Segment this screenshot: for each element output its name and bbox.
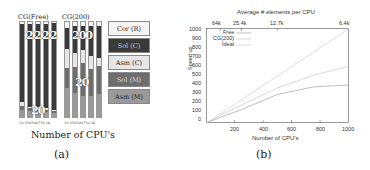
top-tick-12-7k: 12.7k — [270, 20, 283, 26]
y-tick: 400 — [192, 80, 201, 86]
legend-sol-c: Sol (C) — [108, 38, 150, 53]
legend-cor-r: Cor (R) — [108, 21, 150, 36]
caption-b: (b) — [256, 148, 272, 161]
y-tick: 100 — [192, 107, 201, 113]
bar-free-10 — [19, 21, 25, 118]
y-tick: 500 — [192, 71, 201, 77]
x-axis-label-b: Number of CPU's — [252, 135, 299, 141]
bar-annotation-free-bottom: 20 — [31, 104, 44, 117]
caption-a: (a) — [54, 148, 69, 161]
x-axis-label-a: Number of CPU's — [31, 129, 115, 140]
bar-cg200-1k — [96, 21, 102, 118]
bar-annotation-free-top-2: 2 — [34, 29, 41, 42]
bar-annotation-free-top-3: 2 — [42, 29, 49, 42]
x-tick: 600 — [287, 126, 296, 132]
y-tick: 0 — [198, 116, 201, 122]
x-tick: 400 — [259, 126, 268, 132]
legend-asm-c: Asm (C) — [108, 55, 150, 70]
legend-asm-m: Asm (M) — [108, 89, 150, 104]
group-title-cg-free: CG(Free) — [18, 13, 49, 21]
bar-annotation-cg200-top: 200 — [72, 29, 92, 42]
x-tick: 800 — [316, 126, 325, 132]
y-tick: 800 — [192, 44, 201, 50]
bar-annotation-free-top-4: 2 — [50, 29, 57, 42]
y-tick: 1000 — [189, 26, 201, 32]
top-tick-25-4k: 25.4k — [233, 20, 246, 26]
group-title-cg-200: CG(200) — [62, 13, 90, 21]
bar-annotation-free-top-1: 2 — [26, 29, 33, 42]
y-tick: 700 — [192, 53, 201, 59]
legend-sol-m: Sol (M) — [108, 72, 150, 87]
x-ticks-cg-200: 10 250500750 1k — [64, 121, 95, 125]
x-tick: 1000 — [342, 126, 354, 132]
y-tick: 600 — [192, 62, 201, 68]
x-ticks-cg-free: 10 250500750 1k — [19, 121, 50, 125]
top-axis-title: Average # elements per CPU — [237, 9, 315, 15]
y-tick: 900 — [192, 35, 201, 41]
line-free — [207, 85, 350, 123]
x-tick: 200 — [230, 126, 239, 132]
bar-annotation-cg200-mid: 20 — [75, 76, 88, 89]
legend-ideal: Ideal — [222, 41, 234, 47]
top-tick-64k: 64k — [212, 20, 221, 26]
y-tick: 200 — [192, 98, 201, 104]
y-tick: 300 — [192, 89, 201, 95]
top-tick-6-4k: 6.4k — [339, 20, 349, 26]
bar-cg200-10 — [64, 21, 70, 118]
